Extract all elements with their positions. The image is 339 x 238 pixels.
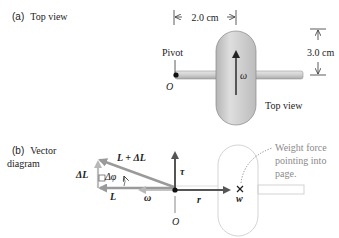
pivot-label: Pivot — [162, 47, 183, 58]
label-L: L — [109, 191, 116, 202]
panel-a-label: (a) Top view — [12, 6, 68, 23]
height-dimension-label: 3.0 cm — [307, 47, 334, 58]
label-w: w — [236, 193, 243, 204]
label-dphi: Δφ — [104, 171, 117, 182]
axle-outline — [258, 185, 304, 194]
weight-note-line2: pointing into — [275, 155, 326, 166]
panel-b-label-line2: diagram — [7, 158, 40, 169]
weight-note-line3: page. — [275, 168, 296, 179]
weight-note-leader — [241, 148, 272, 183]
weight-into-page-icon — [237, 186, 243, 192]
top-view-caption: Top view — [265, 100, 303, 111]
panel-b-vector-diagram: (b) Vector diagram L + ΔL L ΔL Δφ ω τ r — [7, 140, 327, 236]
dphi-arc — [124, 176, 125, 186]
weight-note-line1: Weight force — [275, 142, 327, 153]
height-dimension: 3.0 cm — [307, 29, 334, 75]
label-L-plus-dL: L + ΔL — [116, 152, 146, 163]
origin-label-b: O — [172, 216, 179, 227]
gyroscope-diagram: (a) Top view 2.0 cm ω Pivot O 3.0 — [0, 0, 339, 238]
width-dimension: 2.0 cm — [174, 10, 236, 25]
label-dL: ΔL — [75, 169, 88, 180]
origin-dot — [172, 187, 177, 192]
label-tau: τ — [180, 166, 185, 177]
label-omega: ω — [144, 192, 151, 203]
panel-a-top-view: (a) Top view 2.0 cm ω Pivot O 3.0 — [12, 6, 334, 125]
origin-label-a: O — [166, 81, 173, 92]
label-r: r — [197, 194, 201, 205]
omega-label: ω — [240, 70, 247, 81]
pivot-dot — [173, 72, 178, 77]
width-dimension-label: 2.0 cm — [191, 12, 218, 23]
panel-b-label-line1: (b) Vector — [12, 140, 57, 157]
